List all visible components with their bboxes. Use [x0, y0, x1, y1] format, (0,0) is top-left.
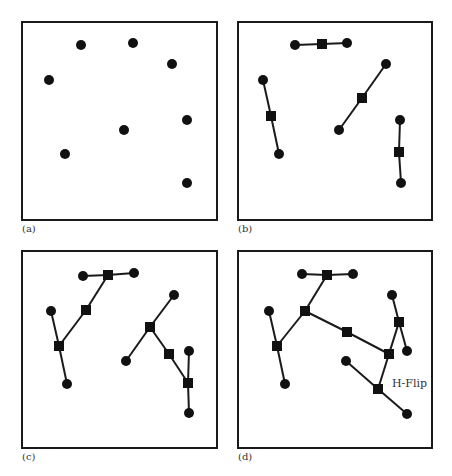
merge-node-square	[373, 384, 383, 394]
data-point-circle	[60, 149, 70, 159]
merge-node-square	[394, 317, 404, 327]
data-point-circle	[381, 59, 391, 69]
merge-node-square	[54, 341, 64, 351]
data-point-circle	[341, 356, 351, 366]
data-point-circle	[121, 356, 131, 366]
hierarchical-clustering-figure: (a)(b)(c)(d)H-Flip	[0, 0, 452, 476]
cluster-edge	[362, 64, 386, 98]
merge-node-square	[317, 39, 327, 49]
data-point-circle	[129, 268, 139, 278]
cluster-edge	[59, 346, 67, 384]
data-point-circle	[76, 40, 86, 50]
cluster-edge	[59, 310, 86, 346]
merge-node-square	[266, 111, 276, 121]
cluster-edge	[263, 80, 271, 116]
cluster-edge	[269, 311, 277, 346]
panel-a: (a)	[22, 22, 217, 234]
data-point-circle	[342, 38, 352, 48]
merge-node-square	[145, 322, 155, 332]
merge-node-square	[394, 147, 404, 157]
data-point-circle	[396, 178, 406, 188]
cluster-edge	[51, 311, 59, 346]
panel-label: (d)	[238, 451, 252, 462]
panel-label: (b)	[238, 223, 252, 234]
cluster-edge	[271, 116, 279, 154]
merge-node-square	[357, 93, 367, 103]
data-point-circle	[290, 40, 300, 50]
data-point-circle	[297, 269, 307, 279]
merge-node-square	[103, 270, 113, 280]
data-point-circle	[402, 346, 412, 356]
cluster-edge	[86, 275, 108, 310]
cluster-edge	[277, 311, 305, 346]
data-point-circle	[280, 379, 290, 389]
panel-c: (c)	[22, 251, 217, 462]
data-point-circle	[184, 346, 194, 356]
cluster-edge	[378, 354, 389, 389]
data-point-circle	[348, 269, 358, 279]
cluster-edge	[305, 275, 327, 311]
cluster-edge	[126, 327, 150, 361]
panel-d: (d)H-Flip	[238, 251, 432, 462]
cluster-edge	[347, 332, 389, 354]
merge-node-square	[342, 327, 352, 337]
panel-b: (b)	[238, 22, 432, 234]
merge-node-square	[272, 341, 282, 351]
data-point-circle	[402, 409, 412, 419]
data-point-circle	[46, 306, 56, 316]
data-point-circle	[258, 75, 268, 85]
panel-label: (c)	[22, 451, 36, 462]
merge-node-square	[183, 378, 193, 388]
data-point-circle	[128, 38, 138, 48]
data-point-circle	[119, 125, 129, 135]
data-point-circle	[78, 271, 88, 281]
data-point-circle	[395, 115, 405, 125]
panel-label: (a)	[22, 223, 36, 234]
merge-node-square	[322, 270, 332, 280]
data-point-circle	[274, 149, 284, 159]
merge-node-square	[300, 306, 310, 316]
h-flip-annotation: H-Flip	[392, 377, 427, 390]
data-point-circle	[167, 59, 177, 69]
data-point-circle	[264, 306, 274, 316]
merge-node-square	[384, 349, 394, 359]
data-point-circle	[184, 408, 194, 418]
data-point-circle	[334, 125, 344, 135]
data-point-circle	[44, 75, 54, 85]
cluster-edge	[277, 346, 285, 384]
data-point-circle	[182, 115, 192, 125]
merge-node-square	[164, 349, 174, 359]
merge-node-square	[81, 305, 91, 315]
data-point-circle	[182, 178, 192, 188]
data-point-circle	[387, 290, 397, 300]
data-point-circle	[62, 379, 72, 389]
cluster-edge	[305, 311, 347, 332]
data-point-circle	[169, 290, 179, 300]
